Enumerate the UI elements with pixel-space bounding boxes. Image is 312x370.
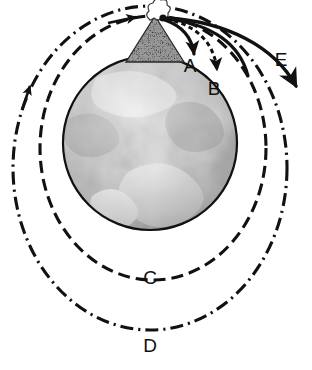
newtons-cannonball-figure: D C [0, 0, 312, 370]
trajectory-b-label: B [208, 78, 221, 99]
orbit-c-label: C [143, 267, 157, 288]
trajectory-e-label: E [275, 49, 288, 70]
figure-canvas: D C [0, 0, 312, 370]
orbit-d-label: D [143, 335, 157, 356]
trajectory-a-label: A [184, 55, 197, 76]
orbit-d-direction-arrow [22, 86, 30, 110]
